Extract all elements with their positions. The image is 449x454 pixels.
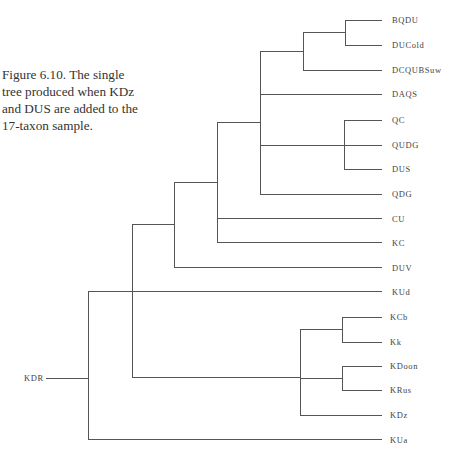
leaf-label: DAQS (392, 89, 418, 99)
leaf-label: KCb (390, 312, 408, 322)
leaf-label: KDoon (390, 361, 418, 371)
leaf-label: DUV (392, 263, 412, 273)
root-label: KDR (24, 373, 44, 383)
leaf-label: BQDU (392, 15, 419, 25)
leaf-label: Kk (390, 337, 402, 347)
leaf-label: KRus (390, 385, 412, 395)
tree-diagram (0, 0, 449, 454)
leaf-label: QDG (392, 189, 412, 199)
leaf-label: KC (392, 238, 405, 248)
leaf-label: KUd (392, 287, 410, 297)
leaf-label: DCQUBSuw (392, 65, 442, 75)
leaf-label: DUS (392, 164, 411, 174)
leaf-label: QUDG (392, 140, 419, 150)
leaf-label: KDz (390, 410, 408, 420)
leaf-label: KUa (390, 435, 408, 445)
leaf-label: DUCold (392, 40, 424, 50)
leaf-label: QC (392, 115, 405, 125)
leaf-label: CU (392, 214, 405, 224)
